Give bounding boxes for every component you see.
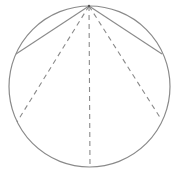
dashed-chords (17, 6, 161, 167)
circle-chords-figure (0, 0, 178, 186)
right-dashed-chord (89, 6, 161, 119)
center-dashed-chord (89, 6, 90, 167)
left-dashed-chord (17, 6, 89, 122)
apex-point (88, 5, 90, 7)
left-solid-chord (16, 6, 89, 54)
right-solid-chord (89, 6, 162, 54)
diagram-canvas (0, 0, 178, 186)
